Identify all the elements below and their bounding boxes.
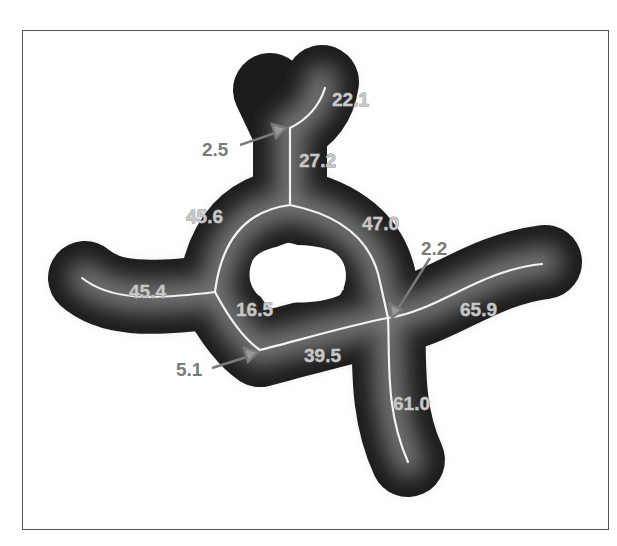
branch-label: 39.5 bbox=[304, 345, 341, 366]
branch-label: 45.4 bbox=[129, 281, 166, 302]
branch-label: 65.9 bbox=[460, 299, 497, 320]
skeleton-figure: 22.1 27.2 45.6 47.0 45.4 16.5 65.9 39.5 … bbox=[0, 0, 617, 546]
loop-hole bbox=[250, 245, 346, 303]
callout-label: 2.2 bbox=[421, 238, 447, 259]
branch-label: 61.0 bbox=[393, 393, 430, 414]
branch-label: 45.6 bbox=[186, 206, 223, 227]
branch-label: 16.5 bbox=[236, 299, 273, 320]
branch-label: 22.1 bbox=[332, 89, 369, 110]
callout-label: 5.1 bbox=[176, 359, 203, 380]
branch-label: 47.0 bbox=[362, 213, 399, 234]
callout-label: 2.5 bbox=[202, 139, 229, 160]
branch-label: 27.2 bbox=[299, 150, 336, 171]
